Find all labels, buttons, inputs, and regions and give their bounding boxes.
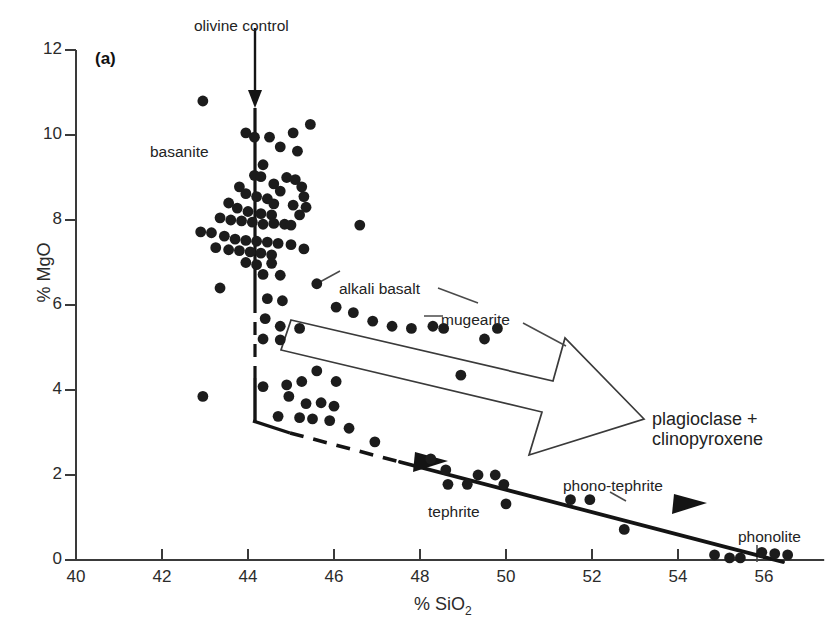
data-point [331, 376, 342, 387]
data-point [501, 499, 512, 510]
data-point [286, 220, 297, 231]
annotation-olivine-control: olivine control [194, 17, 289, 34]
data-point [281, 380, 292, 391]
data-point [240, 188, 251, 199]
data-point [584, 494, 595, 505]
fractionation-trend-dashed [290, 433, 404, 463]
data-point [268, 198, 279, 209]
y-tick-label-12: 12 [28, 39, 62, 58]
data-point [215, 283, 226, 294]
leader-mugearite-right [523, 323, 566, 346]
data-point [782, 550, 793, 561]
data-point [277, 295, 288, 306]
data-point [292, 146, 303, 157]
data-point [619, 524, 630, 535]
panel-label: (a) [95, 49, 116, 68]
data-point [294, 412, 305, 423]
annotation-alkali-basalt: alkali basalt [339, 280, 420, 297]
x-axis-title: % SiO2 [414, 594, 472, 618]
data-point [195, 227, 206, 238]
data-point [348, 307, 359, 318]
data-point [275, 270, 286, 281]
data-point [275, 321, 286, 332]
data-point [245, 246, 256, 257]
data-point [232, 203, 243, 214]
data-point [240, 235, 251, 246]
x-tick-label-46: 46 [314, 567, 354, 586]
data-point [197, 391, 208, 402]
data-point [324, 415, 335, 426]
x-tick-label-50: 50 [486, 567, 526, 586]
data-point [256, 208, 267, 219]
data-point [256, 248, 267, 259]
x-tick-label-48: 48 [400, 567, 440, 586]
x-tick-label-54: 54 [658, 567, 698, 586]
annotation-plagioclase-clinopyroxene: plagioclase + clinopyroxene [652, 409, 763, 449]
data-point [387, 321, 398, 332]
y-axis-title: % MgO [34, 213, 55, 333]
data-point [258, 334, 269, 345]
data-point [249, 132, 260, 143]
x-tick-label-52: 52 [572, 567, 612, 586]
y-tick-label-4: 4 [28, 379, 62, 398]
trend-lines-group [248, 28, 783, 562]
data-point [462, 479, 473, 490]
data-point [301, 202, 312, 213]
data-point [243, 206, 254, 217]
data-point [344, 423, 355, 434]
x-tick-label-56: 56 [744, 567, 784, 586]
data-point [769, 548, 780, 559]
data-point [299, 244, 310, 255]
data-point [275, 142, 286, 153]
data-point [206, 227, 217, 238]
data-point [236, 215, 247, 226]
annotation-mugearite: mugearite [441, 311, 510, 328]
data-point [258, 159, 269, 170]
data-point [296, 376, 307, 387]
data-point [756, 547, 767, 558]
data-point [258, 269, 269, 280]
data-point [294, 323, 305, 334]
data-point [301, 398, 312, 409]
data-point [473, 470, 484, 481]
data-point [709, 550, 720, 561]
data-point [247, 217, 258, 228]
data-point [240, 257, 251, 268]
data-point [275, 186, 286, 197]
data-point [268, 218, 279, 229]
chart-figure: (a) % MgO % SiO2 olivine control basanit… [0, 0, 839, 625]
data-point [197, 96, 208, 107]
data-point [251, 236, 262, 247]
data-point [311, 278, 322, 289]
x-axis-title-text: % SiO [414, 594, 465, 614]
y-tick-label-8: 8 [28, 209, 62, 228]
data-point [428, 321, 439, 332]
plagioclase-block-arrow [281, 320, 644, 455]
data-point [329, 401, 340, 412]
y-tick-label-6: 6 [28, 294, 62, 313]
plagioclase-label-line2: clinopyroxene [652, 429, 763, 449]
y-tick-label-10: 10 [28, 124, 62, 143]
data-point [331, 302, 342, 313]
data-point [307, 414, 318, 425]
annotation-tephrite: tephrite [428, 503, 480, 520]
data-point [251, 191, 262, 202]
data-point [498, 479, 509, 490]
annotation-phonolite: phonolite [738, 528, 801, 545]
data-point [286, 239, 297, 250]
data-point [565, 494, 576, 505]
data-point [275, 334, 286, 345]
y-tick-label-2: 2 [28, 464, 62, 483]
data-point [283, 391, 294, 402]
data-point [296, 181, 307, 192]
data-point [311, 365, 322, 376]
data-point [225, 215, 236, 226]
data-point [288, 200, 299, 211]
data-point [455, 370, 466, 381]
data-point [443, 479, 454, 490]
data-point [258, 381, 269, 392]
data-point [223, 244, 234, 255]
data-point [258, 219, 269, 230]
annotation-phono-tephrite: phono-tephrite [563, 477, 663, 494]
data-point [440, 465, 451, 476]
